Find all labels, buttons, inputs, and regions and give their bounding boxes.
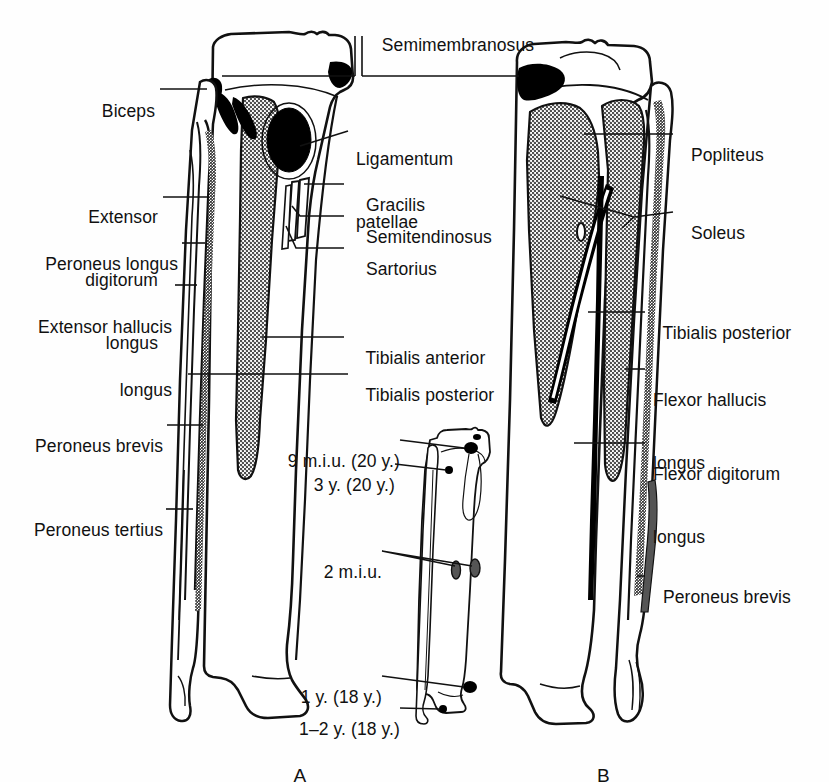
label-biceps: Biceps — [0, 80, 155, 122]
ossification-dot-proximal-tibia — [464, 442, 478, 454]
label-ehl-line1: Extensor hallucis — [0, 317, 172, 338]
panel-caption-b: B — [583, 742, 613, 782]
panel-caption-b-text: B — [597, 765, 610, 782]
label-ossif-1-2y-18y: 1–2 y. (18 y.) — [245, 698, 400, 740]
label-sartorius-text: Sartorius — [366, 259, 437, 279]
label-soleus: Soleus — [681, 202, 829, 244]
label-fdl-line2: longus — [653, 527, 829, 548]
label-popliteus: Popliteus — [681, 124, 829, 166]
panel-caption-a-text: A — [293, 765, 306, 782]
label-tibialis-posterior-a: Tibialis posterior — [356, 364, 566, 406]
label-tibialis-posterior-b-text: Tibialis posterior — [663, 323, 792, 343]
label-popliteus-text: Popliteus — [691, 145, 764, 165]
ossification-dot-distal-fibula — [439, 705, 447, 713]
label-peroneus-brevis-a: Peroneus brevis — [0, 415, 163, 457]
label-ehl-line2: longus — [0, 380, 172, 401]
label-ossif-3y-20y: 3 y. (20 y.) — [255, 454, 395, 496]
ossification-dot-proximal-fibula — [445, 466, 453, 474]
label-ossif-3y-text: 3 y. (20 y.) — [314, 475, 395, 495]
ossification-dot-tibial-shaft — [470, 559, 480, 577]
panel-caption-a: A — [280, 742, 310, 782]
label-ossif-2miu: 2 m.i.u. — [255, 541, 382, 583]
label-ligamentum-line1: Ligamentum — [356, 149, 556, 170]
label-peroneus-longus: Peroneus longus — [0, 233, 178, 275]
label-tibialis-posterior-a-text: Tibialis posterior — [366, 385, 495, 405]
label-edl-line1: Extensor — [0, 207, 158, 228]
label-sartorius: Sartorius — [356, 238, 556, 280]
nutrient-foramen-b — [577, 223, 585, 241]
label-peroneus-brevis-b: Peroneus brevis — [653, 566, 829, 608]
label-semimembranosus-text: Semimembranosus — [382, 35, 534, 55]
figure-canvas: Semimembranosus Biceps Extensor digitoru… — [0, 0, 829, 782]
panel-a-anterior-tibia-fibula — [170, 32, 353, 721]
label-tibialis-posterior-b: Tibialis posterior — [653, 302, 829, 344]
label-flexor-digitorum-longus: Flexor digitorum longus — [653, 422, 829, 569]
label-peroneus-tertius-text: Peroneus tertius — [34, 520, 163, 540]
label-peroneus-longus-text: Peroneus longus — [45, 254, 178, 274]
label-ossif-2miu-text: 2 m.i.u. — [324, 562, 382, 582]
label-ossif-1-2y-text: 1–2 y. (18 y.) — [299, 719, 400, 739]
label-semimembranosus: Semimembranosus — [348, 14, 558, 56]
label-fdl-line1: Flexor digitorum — [653, 464, 829, 485]
label-peroneus-brevis-b-text: Peroneus brevis — [663, 587, 791, 607]
ligamentum-patellae-attachment-a — [267, 108, 311, 172]
label-peroneus-tertius: Peroneus tertius — [0, 499, 163, 541]
label-peroneus-brevis-a-text: Peroneus brevis — [35, 436, 163, 456]
label-biceps-text: Biceps — [102, 101, 155, 121]
label-soleus-text: Soleus — [691, 223, 745, 243]
leader-ossif-1-2y — [400, 708, 440, 709]
label-fhl-line1: Flexor hallucis — [653, 390, 829, 411]
ossification-dot-distal-tibia — [463, 681, 477, 693]
label-tibialis-anterior: Tibialis anterior — [356, 327, 556, 369]
label-extensor-hallucis-longus: Extensor hallucis longus — [0, 275, 172, 422]
ossification-dot-tuberosity — [473, 434, 481, 440]
panel-c-ossification-centres — [416, 428, 490, 724]
